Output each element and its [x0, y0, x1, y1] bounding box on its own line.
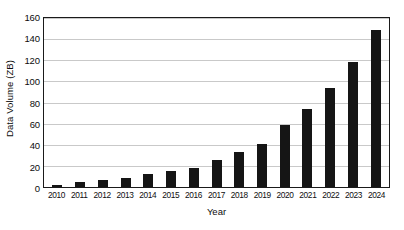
y-tick-label: 80	[30, 97, 40, 108]
x-tick-label: 2016	[182, 190, 205, 204]
bar-2012[interactable]	[98, 180, 108, 187]
bar-2013[interactable]	[121, 178, 131, 188]
bar-slot	[114, 18, 137, 187]
bar-slot	[296, 18, 319, 187]
bar-chart-figure: Data Volume (ZB) 020406080100120140160 2…	[0, 0, 404, 230]
y-tick-label: 120	[24, 54, 40, 65]
bar-2021[interactable]	[302, 109, 312, 187]
bar-slot	[182, 18, 205, 187]
x-tick-label: 2011	[68, 190, 91, 204]
bar-slot	[205, 18, 228, 187]
y-tick-label: 140	[24, 33, 40, 44]
bar-slot	[160, 18, 183, 187]
bar-2024[interactable]	[371, 30, 381, 187]
bar-slot	[251, 18, 274, 187]
bar-2015[interactable]	[166, 171, 176, 187]
bar-2010[interactable]	[52, 185, 62, 187]
y-tick-label: 40	[30, 140, 40, 151]
x-tick-label: 2012	[91, 190, 114, 204]
x-tick-label: 2015	[159, 190, 182, 204]
y-tick-label: 100	[24, 76, 40, 87]
bar-2016[interactable]	[189, 168, 199, 187]
x-tick-label: 2021	[296, 190, 319, 204]
x-axis-title: Year	[43, 206, 390, 217]
y-axis-title-label: Data Volume (ZB)	[5, 59, 16, 136]
bar-2017[interactable]	[212, 160, 222, 187]
x-tick-label: 2018	[228, 190, 251, 204]
y-axis-tick-labels: 020406080100120140160	[18, 17, 40, 188]
y-tick-label: 0	[35, 183, 40, 194]
x-tick-label: 2024	[365, 190, 388, 204]
x-tick-label: 2017	[205, 190, 228, 204]
bar-slot	[46, 18, 69, 187]
bar-slot	[137, 18, 160, 187]
x-tick-label: 2019	[251, 190, 274, 204]
y-axis-title: Data Volume (ZB)	[0, 0, 20, 196]
bar-slot	[228, 18, 251, 187]
bar-slot	[319, 18, 342, 187]
gridline	[44, 187, 389, 188]
bar-2018[interactable]	[234, 152, 244, 187]
bar-slot	[91, 18, 114, 187]
bar-2022[interactable]	[325, 88, 335, 187]
x-tick-label: 2013	[114, 190, 137, 204]
x-tick-label: 2020	[274, 190, 297, 204]
bar-slot	[364, 18, 387, 187]
bars-layer	[44, 18, 389, 187]
x-tick-label: 2010	[45, 190, 68, 204]
bar-slot	[273, 18, 296, 187]
bar-slot	[342, 18, 365, 187]
bar-2019[interactable]	[257, 144, 267, 187]
y-tick-label: 20	[30, 161, 40, 172]
bar-2014[interactable]	[143, 174, 153, 187]
bar-2023[interactable]	[348, 62, 358, 187]
x-axis-tick-labels: 2010201120122013201420152016201720182019…	[43, 190, 390, 204]
bar-slot	[69, 18, 92, 187]
y-tick-label: 60	[30, 118, 40, 129]
x-tick-label: 2022	[319, 190, 342, 204]
bar-2020[interactable]	[280, 125, 290, 187]
y-tick-label: 160	[24, 12, 40, 23]
plot-area	[43, 17, 390, 188]
x-tick-label: 2014	[136, 190, 159, 204]
bar-2011[interactable]	[75, 182, 85, 187]
x-tick-label: 2023	[342, 190, 365, 204]
